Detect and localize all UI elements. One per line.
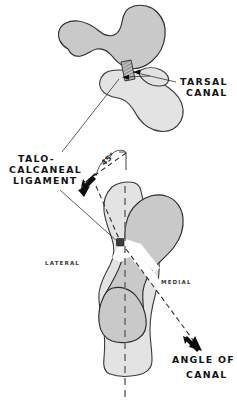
angle-value-label: 45° bbox=[99, 150, 117, 167]
top-figure-calcaneus-shape bbox=[100, 70, 184, 131]
angle-of-canal-line2: CANAL bbox=[186, 369, 227, 380]
ligament-label-line3: LIGAMENT bbox=[13, 175, 77, 186]
ligament-arrow bbox=[78, 173, 96, 197]
medial-label: MEDIAL bbox=[161, 279, 192, 285]
tarsal-canal-label-line2: CANAL bbox=[186, 87, 227, 98]
anatomical-figure: TARSAL CANAL TALO- CALCANEAL LIGAMENT bbox=[0, 0, 237, 405]
angle-of-canal-line1: ANGLE OF bbox=[172, 354, 235, 365]
ligament-attachment-marker bbox=[117, 239, 125, 247]
top-figure-group bbox=[58, 5, 183, 152]
angle-value-text: 45° bbox=[99, 150, 117, 167]
talo-calcaneal-ligament-label: TALO- CALCANEAL LIGAMENT bbox=[9, 153, 82, 186]
angle-of-canal-label: ANGLE OF CANAL bbox=[172, 354, 235, 380]
ligament-label-line2: CALCANEAL bbox=[9, 164, 82, 175]
tarsal-canal-label: TARSAL CANAL bbox=[180, 76, 228, 98]
tarsal-canal-label-line1: TARSAL bbox=[180, 76, 228, 87]
ligament-leader-line-upper bbox=[62, 79, 119, 152]
top-figure-talus-shape bbox=[58, 5, 165, 68]
lateral-label: LATERAL bbox=[45, 260, 80, 266]
ligament-label-line1: TALO- bbox=[18, 153, 55, 164]
diagram-canvas: TARSAL CANAL TALO- CALCANEAL LIGAMENT bbox=[0, 0, 237, 405]
